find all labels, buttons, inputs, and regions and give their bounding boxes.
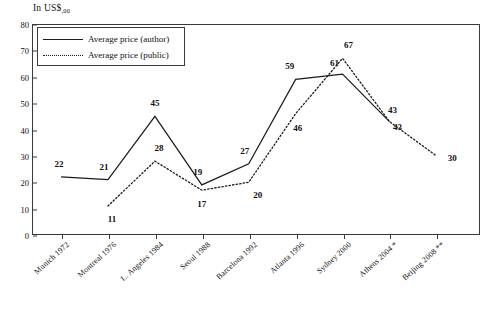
y-axis-unit-prefix: In US$ xyxy=(33,3,61,13)
data-point-label-author: 59 xyxy=(285,61,294,71)
x-axis-category-label: Munich 1972 xyxy=(32,240,71,276)
y-axis-tick xyxy=(33,183,37,184)
x-axis-tick xyxy=(344,234,345,239)
legend-swatch-solid-line-icon xyxy=(43,35,83,43)
x-axis-tick xyxy=(109,234,110,239)
legend-label-public: Average price (public) xyxy=(88,50,169,60)
data-point-label-author: 22 xyxy=(55,159,64,169)
x-axis-category-label: Atlanta 1996 xyxy=(268,240,306,275)
data-point-label-public: 28 xyxy=(154,143,163,153)
x-axis-category-label: Barcelona 1992 xyxy=(214,240,259,281)
x-axis-category-label: Seoul 1988 xyxy=(178,240,212,272)
data-point-label-public: 46 xyxy=(293,123,302,133)
data-point-label-public: 43 xyxy=(393,122,402,132)
x-axis-tick xyxy=(156,234,157,239)
data-point-label-public: 17 xyxy=(197,199,206,209)
y-axis-tick xyxy=(33,25,37,26)
legend-item-author: Average price (author) xyxy=(43,32,178,45)
line-chart: In US$,00 01020304050607080 Munich 1972M… xyxy=(0,0,498,316)
chart-legend: Average price (author) Average price (pu… xyxy=(37,27,185,66)
data-point-label-author: 43 xyxy=(388,105,397,115)
x-axis-category-label: Athens 2004 * xyxy=(358,240,400,279)
data-point-label-public: 67 xyxy=(344,40,353,50)
x-axis-tick xyxy=(437,234,438,239)
legend-label-author: Average price (author) xyxy=(88,34,169,44)
data-point-label-author: 19 xyxy=(193,167,202,177)
data-point-label-author: 45 xyxy=(150,98,159,108)
y-axis-tick-label: 70 xyxy=(5,46,29,56)
x-axis-tick xyxy=(62,234,63,239)
y-axis-tick-label: 10 xyxy=(5,205,29,215)
data-point-label-public: 20 xyxy=(253,190,262,200)
data-point-label-public: 11 xyxy=(108,214,117,224)
y-axis-tick xyxy=(33,130,37,131)
y-axis-tick-label: 20 xyxy=(5,178,29,188)
x-axis-category-label: Montreal 1976 xyxy=(76,240,118,279)
data-point-label-author: 61 xyxy=(330,58,339,68)
y-axis-tick-label: 50 xyxy=(5,99,29,109)
x-axis-tick xyxy=(390,234,391,239)
y-axis-unit-suffix: ,00 xyxy=(61,7,70,14)
y-axis-tick-label: 30 xyxy=(5,152,29,162)
y-axis-tick xyxy=(33,209,37,210)
legend-swatch-dotted-line-icon xyxy=(43,51,83,59)
x-axis-tick xyxy=(297,234,298,239)
y-axis-tick-label: 80 xyxy=(5,20,29,30)
y-axis-tick-label: 0 xyxy=(5,231,29,241)
y-axis-tick xyxy=(33,77,37,78)
data-point-label-author: 27 xyxy=(240,146,249,156)
legend-item-public: Average price (public) xyxy=(43,48,178,61)
x-axis-category-label: Beijing 2008 ** xyxy=(401,240,446,282)
x-axis-category-label: Sydney 2000 xyxy=(315,240,353,276)
x-axis-category-label: L. Angeles 1984 xyxy=(119,240,165,283)
y-axis-tick xyxy=(33,236,37,237)
data-point-label-author: 21 xyxy=(99,162,108,172)
y-axis-tick xyxy=(33,156,37,157)
y-axis-tick xyxy=(33,104,37,105)
x-axis-tick xyxy=(203,234,204,239)
y-axis-tick-label: 60 xyxy=(5,73,29,83)
y-axis-tick-label: 40 xyxy=(5,126,29,136)
data-point-label-public: 30 xyxy=(448,153,457,163)
y-axis-unit-label: In US$,00 xyxy=(33,3,70,14)
x-axis-tick xyxy=(250,234,251,239)
